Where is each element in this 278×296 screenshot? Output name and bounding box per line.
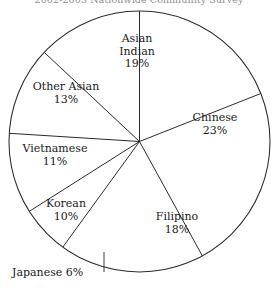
divider-korean-vietnamese xyxy=(9,133,139,141)
slice-label-japanese-name: Japanese xyxy=(12,266,62,279)
slice-label-korean: Korean 10% xyxy=(34,198,98,223)
slice-label-chinese-name: Chinese xyxy=(182,112,248,125)
slice-label-asian-indian: Asian Indian 19% xyxy=(100,33,174,71)
slice-label-other-asian-pct: 13% xyxy=(24,94,108,107)
slice-label-japanese-pct: 6% xyxy=(66,266,83,279)
slice-label-filipino: Filipino 18% xyxy=(145,211,209,236)
slice-label-korean-name: Korean xyxy=(34,198,98,211)
slice-label-japanese: Japanese 6% xyxy=(12,267,116,280)
slice-label-vietnamese: Vietnamese 11% xyxy=(12,143,98,168)
slice-label-vietnamese-pct: 11% xyxy=(12,156,98,169)
slice-label-chinese: Chinese 23% xyxy=(182,112,248,137)
slice-label-filipino-pct: 18% xyxy=(145,224,209,237)
slice-label-vietnamese-name: Vietnamese xyxy=(12,143,98,156)
slice-label-other-asian-name: Other Asian xyxy=(24,81,108,94)
slice-label-chinese-pct: 23% xyxy=(182,125,248,138)
slice-label-asian-indian-name-line1: Asian xyxy=(100,33,174,46)
slice-label-asian-indian-pct: 19% xyxy=(100,58,174,71)
divider-chinese-filipino xyxy=(140,142,203,257)
slice-label-filipino-name: Filipino xyxy=(145,211,209,224)
pie-chart-figure: 2002-2003 Nationwide Community Survey xyxy=(0,0,278,296)
slice-label-korean-pct: 10% xyxy=(34,211,98,224)
slice-label-other-asian: Other Asian 13% xyxy=(24,81,108,106)
